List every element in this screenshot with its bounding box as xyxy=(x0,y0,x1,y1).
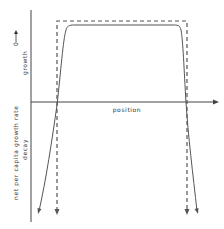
growth-rate-curve xyxy=(39,25,197,211)
growth-direction-arrow-icon xyxy=(14,30,18,34)
x-axis-label: position xyxy=(113,106,142,114)
zero-label: 0 xyxy=(12,42,19,46)
step-profile-dashed xyxy=(57,21,187,211)
diagram-canvas: position net per capita growth rate deca… xyxy=(0,0,224,229)
right-curve-arrow-icon xyxy=(195,208,199,214)
decay-label: decay xyxy=(21,139,29,160)
y-axis-label: net per capita growth rate xyxy=(12,105,20,200)
growth-label: growth xyxy=(21,51,29,75)
x-axis-arrow-icon xyxy=(213,100,219,105)
left-dashed-arrow-icon xyxy=(55,209,60,215)
left-curve-arrow-icon xyxy=(38,208,42,214)
right-dashed-arrow-icon xyxy=(185,209,190,215)
